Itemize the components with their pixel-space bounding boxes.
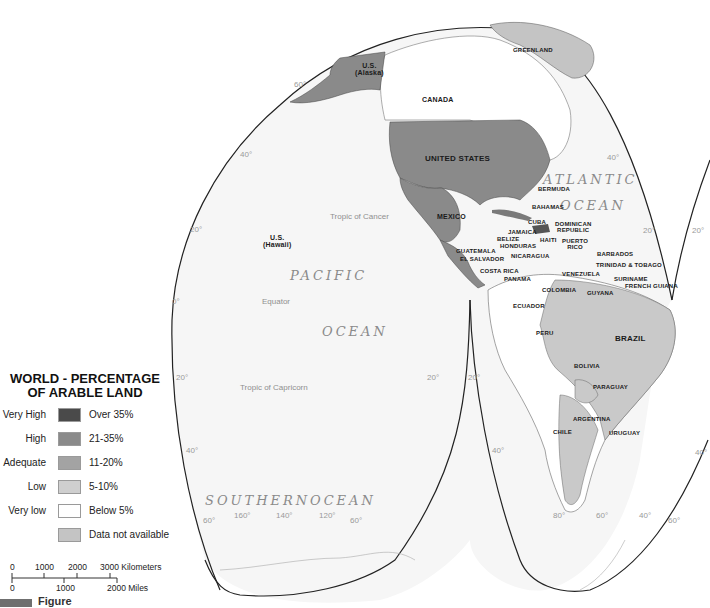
tropic-of-cancer-label: Tropic of Cancer bbox=[330, 212, 389, 221]
label-bolivia: BOLIVIA bbox=[574, 363, 600, 369]
lat-label: 40° bbox=[492, 446, 504, 455]
lat-label: 40° bbox=[186, 446, 198, 455]
label-paraguay: PARAGUAY bbox=[593, 384, 628, 390]
legend-item-adequate: Adequate 11-20% bbox=[0, 456, 170, 472]
legend-swatch bbox=[58, 456, 81, 470]
label-el-salvador: EL SALVADOR bbox=[460, 256, 504, 262]
ocean-southern-label-2: OCEAN bbox=[310, 493, 376, 508]
tropic-of-capricorn-label: Tropic of Capricorn bbox=[240, 383, 308, 392]
lat-label: 20° bbox=[427, 373, 439, 382]
label-belize: BELIZE bbox=[497, 236, 520, 242]
lon-label: 80° bbox=[553, 511, 565, 520]
map-boundary-east-lobe bbox=[672, 160, 710, 300]
label-argentina: ARGENTINA bbox=[573, 416, 610, 422]
lat-label: 40° bbox=[607, 153, 619, 162]
label-brazil: BRAZIL bbox=[615, 334, 646, 343]
lat-label: 20° bbox=[176, 373, 188, 382]
label-trinidad-tobago: TRINIDAD & TOBAGO bbox=[596, 262, 662, 268]
label-suriname: SURINAME bbox=[614, 276, 648, 282]
lon-label: 60° bbox=[596, 511, 608, 520]
lat-label: 20° bbox=[643, 226, 655, 235]
lat-label: 60° bbox=[294, 80, 306, 89]
label-alaska: U.S.(Alaska) bbox=[355, 62, 384, 76]
label-chile: CHILE bbox=[553, 429, 572, 435]
lon-label: 40° bbox=[639, 511, 651, 520]
lat-label: 20° bbox=[468, 373, 480, 382]
figure-bar bbox=[0, 599, 32, 607]
label-panama: PANAMA bbox=[504, 276, 531, 282]
legend-swatch bbox=[58, 504, 81, 518]
label-mexico: MEXICO bbox=[437, 213, 466, 220]
label-guatemala: GUATEMALA bbox=[456, 248, 496, 254]
legend-swatch bbox=[58, 528, 81, 542]
equator-label: Equator bbox=[262, 297, 290, 306]
label-peru: PERU bbox=[536, 330, 553, 336]
lat-label: 20° bbox=[692, 226, 704, 235]
label-ecuador: ECUADOR bbox=[513, 303, 545, 309]
label-french-guiana: FRENCH GUIANA bbox=[625, 283, 678, 289]
lat-label: 40° bbox=[695, 448, 707, 457]
lat-label: 60° bbox=[668, 516, 680, 525]
lat-label: 20° bbox=[190, 225, 202, 234]
lon-label: 140° bbox=[276, 511, 293, 520]
label-haiti: HAITI bbox=[540, 237, 557, 243]
legend-swatch bbox=[58, 432, 81, 446]
label-hawaii: U.S.(Hawaii) bbox=[263, 234, 291, 248]
label-united-states: UNITED STATES bbox=[425, 154, 490, 163]
legend-title: WORLD - PERCENTAGE OF ARABLE LAND bbox=[10, 372, 160, 400]
legend-item-very-high: Very High Over 35% bbox=[0, 408, 170, 424]
lat-label: 60° bbox=[203, 516, 215, 525]
ocean-atlantic-label-1: ATLANTIC bbox=[543, 172, 638, 187]
ocean-pacific-label-2: OCEAN bbox=[322, 324, 388, 339]
label-bahamas: BAHAMAS bbox=[532, 204, 564, 210]
legend-swatch bbox=[58, 408, 81, 422]
label-dominican-republic: DOMINICANREPUBLIC bbox=[555, 221, 591, 233]
scale-bar: 0 1000 2000 3000 Kilometers 0 1000 2000 … bbox=[0, 562, 170, 592]
label-nicaragua: NICARAGUA bbox=[511, 253, 549, 259]
label-uruguay: URUGUAY bbox=[609, 430, 640, 436]
label-colombia: COLOMBIA bbox=[542, 287, 576, 293]
ocean-southern-label-1: SOUTHERN bbox=[205, 493, 310, 508]
label-barbados: BARBADOS bbox=[597, 251, 633, 257]
label-puerto-rico: PUERTORICO bbox=[562, 238, 588, 250]
label-canada: CANADA bbox=[422, 96, 454, 103]
legend-item-high: High 21-35% bbox=[0, 432, 170, 448]
label-guyana: GUYANA bbox=[587, 290, 614, 296]
lat-label: 60° bbox=[350, 516, 362, 525]
label-jamaica: JAMAICA bbox=[508, 229, 537, 235]
legend-swatch bbox=[58, 480, 81, 494]
label-bermuda: BERMUDA bbox=[538, 186, 570, 192]
scale-bar-line bbox=[0, 573, 170, 583]
label-cuba: CUBA bbox=[528, 219, 546, 225]
ocean-pacific-label-1: PACIFIC bbox=[290, 268, 367, 283]
lon-label: 120° bbox=[319, 511, 336, 520]
lat-label: 40° bbox=[240, 150, 252, 159]
legend-item-very-low: Very low Below 5% bbox=[0, 504, 170, 520]
lon-label: 160° bbox=[234, 511, 251, 520]
legend-item-no-data: Data not available bbox=[0, 528, 170, 544]
label-greenland: GREENLAND bbox=[513, 47, 553, 53]
label-venezuela: VENEZUELA bbox=[562, 271, 600, 277]
label-honduras: HONDURAS bbox=[500, 243, 536, 249]
ocean-atlantic-label-2: OCEAN bbox=[560, 198, 626, 213]
legend-item-low: Low 5-10% bbox=[0, 480, 170, 496]
lat-label: 0° bbox=[172, 297, 180, 306]
label-costa-rica: COSTA RICA bbox=[480, 268, 519, 274]
